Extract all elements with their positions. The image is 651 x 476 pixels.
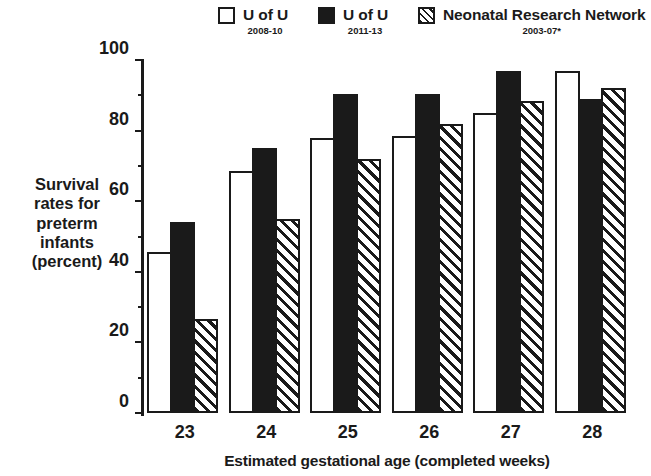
bar-series-container [144, 60, 633, 413]
legend-item-2: Neonatal Research Network 2003-07* [418, 6, 646, 36]
bar [438, 124, 463, 413]
y-axis-major-tick [135, 271, 144, 273]
bar [555, 71, 580, 413]
bar [333, 94, 358, 413]
y-axis-tick-label: 0 [119, 391, 129, 412]
bar [415, 94, 440, 413]
bar [170, 222, 195, 413]
bar [275, 219, 300, 413]
bar-group [392, 60, 467, 413]
y-axis-title-line-2: preterm [2, 214, 132, 233]
legend-item-2-sublabel: 2003-07* [418, 25, 646, 36]
x-axis-title: Estimated gestational age (completed wee… [141, 452, 633, 470]
x-axis-tick-label: 23 [175, 422, 195, 443]
bar [252, 148, 277, 413]
legend-item-0: U of U 2008-10 [218, 6, 288, 36]
hatched-square-swatch [418, 7, 435, 24]
x-axis-tick-label: 25 [338, 422, 358, 443]
bar [392, 136, 417, 413]
bar-group [310, 60, 385, 413]
bar [229, 171, 254, 413]
bar-group [229, 60, 304, 413]
open-square-swatch [218, 7, 235, 24]
legend-item-1: U of U 2011-13 [318, 6, 388, 36]
bar-group [473, 60, 548, 413]
bar [310, 138, 335, 413]
y-axis-major-tick [135, 59, 144, 61]
bar [147, 252, 172, 413]
bar [601, 88, 626, 413]
y-axis-major-tick [135, 412, 144, 414]
y-axis-major-tick [135, 341, 144, 343]
x-axis-tick-label: 27 [501, 422, 521, 443]
bar [356, 159, 381, 413]
bar [193, 319, 218, 413]
legend-item-1-label: U of U [343, 6, 388, 24]
legend-item-0-sublabel: 2008-10 [218, 25, 288, 36]
y-axis-major-tick [135, 130, 144, 132]
filled-square-swatch [318, 7, 335, 24]
x-axis-tick-label: 26 [419, 422, 439, 443]
bar [473, 113, 498, 413]
legend-item-2-label: Neonatal Research Network [443, 6, 646, 24]
y-axis-tick-label: 100 [99, 38, 129, 59]
x-axis-tick-label: 28 [582, 422, 602, 443]
bar-group [555, 60, 630, 413]
x-axis-tick-label: 24 [256, 422, 276, 443]
bar [519, 101, 544, 413]
chart-legend: U of U 2008-10 U of U 2011-13 Neonatal R… [0, 6, 651, 52]
bar [496, 71, 521, 413]
y-axis-tick-label: 20 [109, 320, 129, 341]
legend-item-1-sublabel: 2011-13 [318, 25, 388, 36]
bar [578, 99, 603, 413]
legend-item-0-label: U of U [243, 6, 288, 24]
y-axis-tick-label: 80 [109, 109, 129, 130]
y-axis-tick-label: 40 [109, 250, 129, 271]
plot-area: 020406080100 232425262728 [141, 60, 633, 413]
y-axis-tick-label: 60 [109, 179, 129, 200]
bar-group [147, 60, 222, 413]
y-axis-major-tick [135, 200, 144, 202]
